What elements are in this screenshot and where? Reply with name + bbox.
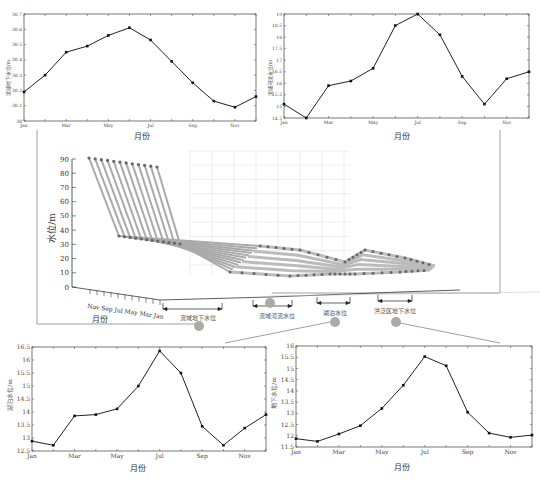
y-tick-label: 14.5 [281,376,295,383]
x-tick-label: Jan [290,448,301,456]
data-marker [402,384,405,387]
x-tick-label: May [111,452,125,460]
y-tick-label: 14.5 [17,395,31,402]
y-tick-label: 30.6 [12,27,22,32]
tl-ylabel: 流域地下水位/m [5,60,12,97]
y-tick-label: 17 [276,58,282,63]
bl-ylabel: 湖泊水位/m [6,379,14,411]
y-tick-label: 15 [22,382,30,389]
data-marker [265,413,268,416]
y-tick-label: 13 [286,409,294,416]
x-tick-label: Mar [333,448,346,455]
y-tick-label: 15.5 [272,92,282,97]
chart-3d-water-levels: 0102030405060708090 [60,150,540,331]
figure-canvas: 3030.130.230.330.430.530.630.7JanMarMayJ… [0,0,540,484]
z-tick-label: 70 [60,184,69,192]
y-tick-label: 13.5 [17,421,31,428]
x-tick-label: Jul [146,123,154,128]
data-line [296,357,532,442]
tr-ylabel: 流域河流水位/m [267,60,274,97]
callout-dot [265,298,275,308]
data-marker [137,385,140,388]
data-marker [359,424,362,427]
x-tick-label: May [368,120,378,125]
z-tick-label: 80 [60,170,69,178]
3d-month-label: 月份 [92,314,108,324]
data-marker [191,81,194,84]
z-tick-label: 20 [60,255,69,263]
y-tick-label: 30.1 [12,103,22,108]
z-tick-label: 40 [60,227,69,235]
data-marker [234,106,237,109]
x-tick-label: Jan [279,120,287,125]
data-marker [213,100,216,103]
data-marker [283,103,286,106]
group-label-floodplain-groundwater: 洪泛区地下水位 [374,307,416,315]
data-marker [381,407,384,410]
tl-xlabel: 月份 [134,131,150,141]
y-tick-label: 15 [276,104,282,109]
x-tick-label: Sep [188,123,197,128]
br-ylabel: 地下水位/m [270,377,278,409]
data-marker [95,413,98,416]
x-tick-label: Jan [19,123,27,128]
x-tick-label: Nov [502,120,512,125]
data-marker [394,24,397,27]
surface-mesh [87,156,435,277]
y-tick-label: 16.5 [272,69,282,74]
x-tick-label: May [103,123,113,128]
y-tick-label: 19 [276,12,282,17]
y-tick-label: 13.5 [281,398,295,405]
data-marker [201,425,204,428]
plot-frame [32,347,266,451]
data-marker [31,440,34,443]
x-tick-label: Mar [61,123,71,128]
y-tick-label: 16 [286,342,294,349]
data-marker [255,95,258,98]
x-tick-label: Nov [504,448,517,455]
z-tick-label: 50 [60,212,69,220]
group-label-basin-groundwater: 流域地下水位 [180,314,216,322]
z-tick-label: 60 [60,198,69,206]
y-tick-label: 15.5 [17,369,31,376]
x-tick-label: Mar [68,452,81,459]
y-tick-label: 12 [286,432,294,439]
data-line [32,351,266,445]
data-marker [65,51,68,54]
y-tick-label: 15.5 [281,353,295,360]
y-tick-label: 30.5 [12,42,22,47]
x-tick-label: Nov [239,452,252,459]
data-marker [243,427,246,430]
callout-dot [330,317,340,327]
data-marker [107,34,110,37]
data-marker [338,433,341,436]
data-marker [128,26,131,29]
base-axis [72,287,460,300]
data-marker [316,440,319,443]
group-label-lake: 湖泊水位 [323,309,347,317]
y-tick-label: 14 [286,387,294,394]
plot-frame [296,346,532,447]
data-marker [86,45,89,48]
z-tick-label: 0 [65,284,69,292]
data-marker [423,355,426,358]
data-marker [416,13,419,16]
data-marker [531,434,534,437]
y-tick-label: 16 [22,356,30,363]
chart-bottom-left-lake: 12.51313.51414.51515.51616.5JanMarMayJul… [17,343,268,460]
data-marker [73,415,76,418]
data-marker [116,408,119,411]
y-tick-label: 30.2 [12,88,22,93]
y-tick-label: 30.4 [12,57,22,62]
3d-zlabel: 水位/m [46,213,57,243]
data-marker [528,70,531,73]
data-marker [350,80,353,83]
x-tick-label: Jul [155,452,164,460]
z-tick-label: 90 [60,156,69,164]
data-marker [488,432,491,435]
data-marker [158,350,161,353]
x-tick-label: May [375,448,389,456]
x-tick-label: Sep [462,448,474,456]
z-tick-label: 10 [60,269,69,277]
chart-top-right-basin-river: 14.51515.51616.51717.51818.519JanMarMayJ… [272,12,530,125]
